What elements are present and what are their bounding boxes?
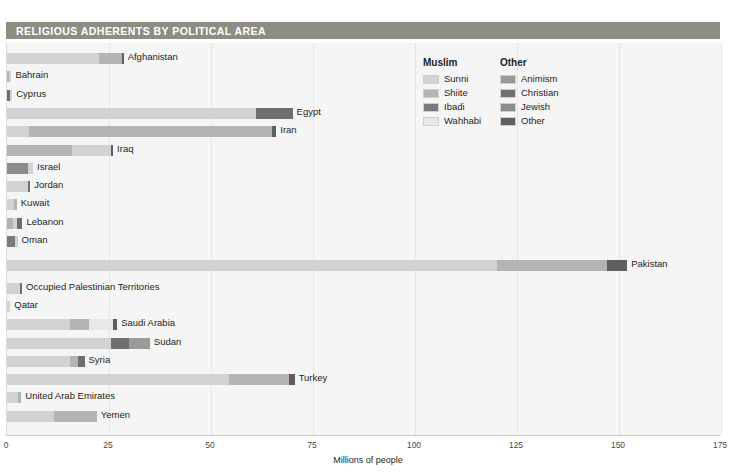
legend-item-other[interactable]: Other — [500, 114, 559, 128]
bar-label: Oman — [22, 234, 48, 245]
bar-label: Cyprus — [16, 88, 46, 99]
legend-label: Sunni — [444, 73, 468, 84]
bar-segment-sunni — [7, 283, 20, 294]
stacked-bar[interactable] — [7, 199, 17, 210]
bar-segment-other — [289, 374, 295, 385]
legend-swatch-icon — [423, 89, 439, 98]
stacked-bar[interactable] — [7, 108, 293, 119]
bar-segment-shiite — [54, 411, 97, 422]
chart-title-bar: RELIGIOUS ADHERENTS BY POLITICAL AREA — [6, 22, 720, 39]
bar-segment-shiite — [99, 53, 121, 64]
stacked-bar[interactable] — [7, 319, 117, 330]
stacked-bar[interactable] — [7, 236, 18, 247]
stacked-bar[interactable] — [7, 181, 30, 192]
legend-group-muslim: MuslimSunniShiiteIbadiWahhabi — [423, 57, 481, 128]
gridline-175 — [721, 43, 722, 435]
bar-label: Pakistan — [631, 258, 667, 269]
bar-segment-shiite — [229, 374, 288, 385]
legend-item-ibadi[interactable]: Ibadi — [423, 100, 481, 114]
bar-segment-shiite — [14, 199, 17, 210]
gridline-150 — [619, 43, 620, 435]
stacked-bar[interactable] — [7, 163, 33, 174]
bar-segment-wahhabi — [89, 319, 113, 330]
bar-segment-sunni — [7, 126, 29, 137]
bar-segment-christian — [20, 283, 22, 294]
tick-label-175: 175 — [713, 440, 727, 450]
bar-segment-sunni — [7, 319, 70, 330]
bar-segment-sunni — [15, 236, 17, 247]
chart-figure: RELIGIOUS ADHERENTS BY POLITICAL AREA Af… — [0, 0, 736, 474]
bar-segment-christian — [17, 218, 22, 229]
bar-segment-sunni — [9, 71, 11, 82]
bar-label: Syria — [89, 354, 111, 365]
plot-area: AfghanistanBahrainCyprusEgyptIranIraqIsr… — [6, 43, 721, 435]
bar-segment-sunni — [72, 145, 110, 156]
stacked-bar[interactable] — [7, 53, 124, 64]
bar-segment-sunni — [7, 181, 28, 192]
stacked-bar[interactable] — [7, 411, 97, 422]
stacked-bar[interactable] — [7, 260, 627, 271]
bar-segment-other — [113, 319, 117, 330]
bar-label: United Arab Emirates — [25, 390, 115, 401]
legend-swatch-icon — [500, 89, 516, 98]
bar-segment-sunni — [7, 392, 18, 403]
tick-label-75: 75 — [307, 440, 316, 450]
bar-segment-sunni — [7, 108, 256, 119]
legend-item-christian[interactable]: Christian — [500, 86, 559, 100]
bar-segment-christian — [28, 181, 30, 192]
stacked-bar[interactable] — [7, 90, 12, 101]
stacked-bar[interactable] — [7, 338, 150, 349]
bar-segment-christian — [78, 356, 84, 367]
bar-segment-sunni — [7, 260, 497, 271]
bar-label: Afghanistan — [128, 51, 178, 62]
bar-segment-sunni — [7, 356, 70, 367]
bar-segment-sunni — [7, 338, 111, 349]
bar-segment-shiite — [7, 145, 72, 156]
stacked-bar[interactable] — [7, 126, 276, 137]
bar-label: Israel — [37, 161, 60, 172]
legend-group-title: Other — [500, 57, 559, 68]
legend-item-animism[interactable]: Animism — [500, 72, 559, 86]
legend-item-wahhabi[interactable]: Wahhabi — [423, 114, 481, 128]
legend-label: Wahhabi — [444, 115, 481, 126]
legend-item-shiite[interactable]: Shiite — [423, 86, 481, 100]
legend-swatch-icon — [423, 75, 439, 84]
bar-label: Sudan — [154, 336, 181, 347]
stacked-bar[interactable] — [7, 218, 22, 229]
bar-label: Egypt — [297, 106, 321, 117]
stacked-bar[interactable] — [7, 392, 21, 403]
stacked-bar[interactable] — [7, 356, 85, 367]
legend-item-jewish[interactable]: Jewish — [500, 100, 559, 114]
bar-segment-christian — [111, 338, 129, 349]
legend-label: Animism — [521, 73, 557, 84]
bar-segment-shiite — [70, 356, 78, 367]
bar-segment-sunni — [10, 90, 12, 101]
bar-label: Yemen — [101, 409, 130, 420]
bar-label: Qatar — [14, 299, 38, 310]
bar-segment-other — [272, 126, 276, 137]
bar-segment-animism — [129, 338, 149, 349]
stacked-bar[interactable] — [7, 374, 295, 385]
bar-segment-other — [607, 260, 627, 271]
legend-item-sunni[interactable]: Sunni — [423, 72, 481, 86]
stacked-bar[interactable] — [7, 301, 10, 312]
legend-group-title: Muslim — [423, 57, 481, 68]
tick-label-100: 100 — [407, 440, 421, 450]
bar-segment-jewish — [7, 163, 28, 174]
tick-label-150: 150 — [611, 440, 625, 450]
bar-segment-shiite — [29, 126, 272, 137]
stacked-bar[interactable] — [7, 283, 22, 294]
bar-segment-sunni — [7, 199, 14, 210]
bar-label: Bahrain — [15, 69, 48, 80]
stacked-bar[interactable] — [7, 145, 113, 156]
stacked-bar[interactable] — [7, 71, 11, 82]
bar-segment-shiite — [497, 260, 607, 271]
legend-group-other: OtherAnimismChristianJewishOther — [500, 57, 559, 128]
bar-label: Occupied Palestinian Territories — [26, 281, 159, 292]
legend-label: Shiite — [444, 87, 468, 98]
bar-segment-other — [111, 145, 113, 156]
bar-segment-sunni — [28, 163, 33, 174]
bar-label: Iraq — [117, 143, 133, 154]
bar-label: Turkey — [299, 372, 328, 383]
legend-label: Other — [521, 115, 545, 126]
